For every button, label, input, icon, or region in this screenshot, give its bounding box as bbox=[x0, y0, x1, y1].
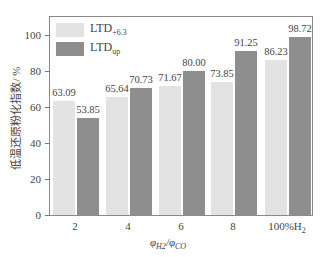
legend-item-ltd-6-3: LTD+6.3 bbox=[56, 21, 127, 38]
y-tick bbox=[45, 143, 50, 144]
x-axis-title: φH2/φCO bbox=[150, 236, 186, 251]
legend-swatch-dark bbox=[56, 42, 84, 56]
value-label: 80.00 bbox=[174, 57, 214, 68]
bar-ltd-up bbox=[289, 37, 311, 215]
y-tick bbox=[45, 215, 50, 216]
y-tick-label: 60 bbox=[11, 101, 41, 113]
x-tick-label: 8 bbox=[203, 220, 263, 232]
value-label: 71.67 bbox=[150, 72, 190, 83]
legend: LTD+6.3 LTDup bbox=[56, 21, 127, 59]
bar-ltd-6-3 bbox=[265, 60, 287, 215]
y-tick-label: 40 bbox=[11, 137, 41, 149]
bar-ltd-6-3 bbox=[53, 101, 75, 215]
y-tick-label: 100 bbox=[11, 29, 41, 41]
bar-ltd-up bbox=[183, 71, 205, 215]
y-tick-label: 80 bbox=[11, 65, 41, 77]
bar-ltd-up bbox=[130, 88, 152, 215]
y-tick bbox=[45, 107, 50, 108]
legend-swatch-light bbox=[56, 23, 84, 37]
legend-item-ltd-up: LTDup bbox=[56, 40, 127, 57]
y-tick bbox=[45, 35, 50, 36]
bar-ltd-6-3 bbox=[106, 97, 128, 215]
x-tick-label: 4 bbox=[98, 220, 158, 232]
y-tick bbox=[45, 71, 50, 72]
value-label: 73.85 bbox=[202, 68, 242, 79]
x-tick-label: 2 bbox=[45, 220, 105, 232]
bar-ltd-6-3 bbox=[159, 86, 181, 215]
value-label: 53.85 bbox=[68, 104, 108, 115]
value-label: 86.23 bbox=[256, 46, 296, 57]
bar-ltd-up bbox=[77, 118, 99, 215]
value-label: 98.72 bbox=[280, 23, 320, 34]
y-tick-label: 20 bbox=[11, 173, 41, 185]
bar-ltd-6-3 bbox=[211, 82, 233, 215]
y-tick bbox=[45, 179, 50, 180]
plot-area: LTD+6.3 LTDup 63.0953.8565.6470.7371.678… bbox=[49, 16, 313, 216]
x-tick-label: 100%H2 bbox=[257, 220, 317, 235]
x-tick-label: 6 bbox=[151, 220, 211, 232]
value-label: 63.09 bbox=[44, 87, 84, 98]
y-tick-label: 0 bbox=[11, 209, 41, 221]
